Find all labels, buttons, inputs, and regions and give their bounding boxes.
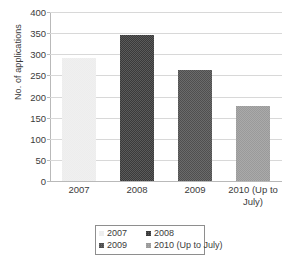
x-axis-tick-labels: 2007200820092010 (Up toJuly) [50, 184, 282, 216]
legend-swatch-icon-2 [99, 243, 104, 248]
legend-item-1[interactable]: 2008 [146, 228, 223, 239]
x-tick-label-0: 2007 [50, 184, 108, 196]
gridline-0 [50, 181, 282, 182]
x-tick-label-1: 2008 [108, 184, 166, 196]
y-tick-label-150: 150 [2, 112, 46, 123]
y-tick-label-50: 50 [2, 154, 46, 165]
y-tick-label-250: 250 [2, 70, 46, 81]
legend-swatch-icon-0 [99, 231, 104, 236]
y-tick-label-200: 200 [2, 91, 46, 102]
bar-chart-figure: No. of applications 40035030025020015010… [0, 0, 290, 265]
y-tick-label-0: 0 [2, 176, 46, 187]
legend-label-0: 2007 [107, 228, 127, 239]
bar-2009 [178, 70, 212, 181]
legend-label-2: 2009 [107, 240, 127, 251]
chart-legend: 2007200820092010 (Up to July) [95, 225, 205, 255]
bars-layer [50, 12, 282, 181]
legend-label-3: 2010 (Up to July) [154, 240, 223, 251]
y-axis-tick-labels: 400350300250200150100500 [0, 12, 46, 181]
x-tick-label-2: 2009 [166, 184, 224, 196]
x-tick-label-3: 2010 (Up toJuly) [224, 184, 282, 207]
plot-area [50, 12, 282, 181]
legend-label-1: 2008 [154, 228, 174, 239]
bar-2008 [120, 35, 154, 181]
bar-2007 [62, 58, 96, 181]
legend-item-2[interactable]: 2009 [99, 240, 146, 251]
bar-2010-up-to-july [236, 106, 270, 181]
legend-swatch-icon-3 [146, 243, 151, 248]
y-tick-label-100: 100 [2, 133, 46, 144]
y-tick-label-400: 400 [2, 7, 46, 18]
legend-item-3[interactable]: 2010 (Up to July) [146, 240, 223, 251]
y-tick-label-300: 300 [2, 49, 46, 60]
legend-swatch-icon-1 [146, 231, 151, 236]
legend-grid: 2007200820092010 (Up to July) [99, 228, 201, 251]
y-tick-label-350: 350 [2, 28, 46, 39]
legend-item-0[interactable]: 2007 [99, 228, 146, 239]
